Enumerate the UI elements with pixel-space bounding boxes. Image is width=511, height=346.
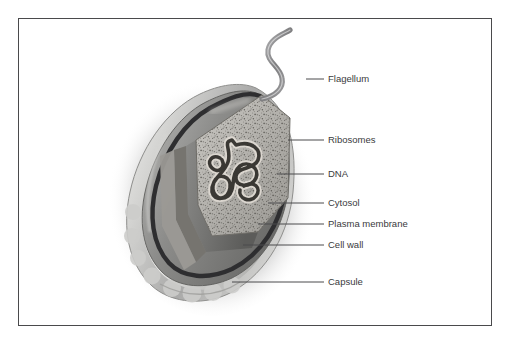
label-text-plasma-membrane: Plasma membrane: [328, 218, 408, 229]
cell-diagram: FlagellumRibosomesDNACytosolPlasma membr…: [0, 0, 511, 346]
label-text-flagellum: Flagellum: [328, 73, 369, 84]
diagram-canvas: FlagellumRibosomesDNACytosolPlasma membr…: [0, 0, 511, 346]
label-text-dna: DNA: [328, 168, 349, 179]
label-flagellum[interactable]: Flagellum: [306, 73, 369, 84]
label-text-cell-wall: Cell wall: [328, 239, 363, 250]
label-text-capsule: Capsule: [328, 276, 363, 287]
label-text-ribosomes: Ribosomes: [328, 134, 376, 145]
label-text-cytosol: Cytosol: [328, 197, 360, 208]
flagellum-structure: [262, 30, 290, 99]
